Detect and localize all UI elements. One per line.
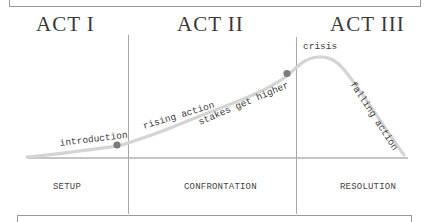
label-falling-action: falling action — [347, 80, 400, 153]
stakes-marker-dot — [283, 70, 290, 77]
bottom-frame-box — [17, 215, 412, 222]
act-1-title: ACT I — [36, 12, 95, 37]
act-3-title: ACT III — [330, 12, 405, 37]
section-confrontation-label: CONFRONTATION — [184, 182, 257, 192]
label-crisis: crisis — [303, 41, 337, 52]
section-resolution-label: RESOLUTION — [340, 182, 396, 192]
section-setup-label: SETUP — [53, 182, 81, 192]
act-2-title: ACT II — [177, 12, 244, 37]
introduction-marker-dot — [113, 141, 120, 148]
